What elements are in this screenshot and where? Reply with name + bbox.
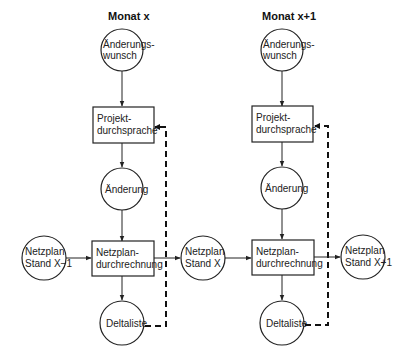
svg-text:Netzplan: Netzplan xyxy=(185,246,224,257)
svg-text:Netzplan: Netzplan xyxy=(345,245,384,256)
network-state-x-plus-1: Netzplan Stand X+1 xyxy=(341,235,392,279)
column-month-x: Monat x Änderungs- wunsch Projekt- durch… xyxy=(92,10,166,345)
column-month-x-plus-1: Monat x+1 Änderungs- wunsch Projekt- dur… xyxy=(252,10,328,345)
network-calc-node: Netzplan- durchrechnung xyxy=(252,240,323,275)
svg-text:Änderungs-: Änderungs- xyxy=(263,39,315,50)
svg-text:Netzplan: Netzplan xyxy=(25,246,64,257)
network-calc-node: Netzplan- durchrechnung xyxy=(92,241,163,276)
project-review-node: Projekt- durchsprache xyxy=(93,107,158,143)
network-state-x: Netzplan Stand X xyxy=(181,236,225,280)
project-review-node: Projekt- durchsprache xyxy=(252,106,317,142)
svg-text:Stand X: Stand X xyxy=(185,258,221,269)
svg-text:Deltaliste: Deltaliste xyxy=(266,318,308,329)
svg-text:Stand X−1: Stand X−1 xyxy=(25,258,72,269)
svg-text:Projekt-: Projekt- xyxy=(256,112,290,123)
svg-text:Stand X+1: Stand X+1 xyxy=(345,257,392,268)
svg-text:durchrechnung: durchrechnung xyxy=(96,259,163,270)
feedback-loop-dashed xyxy=(145,127,166,326)
svg-text:Änderung: Änderung xyxy=(265,183,308,194)
feedback-loop-dashed xyxy=(305,126,328,325)
change-node: Änderung xyxy=(261,167,308,209)
svg-text:Änderungs-: Änderungs- xyxy=(103,39,155,50)
svg-text:Netzplan-: Netzplan- xyxy=(96,247,139,258)
svg-text:Netzplan-: Netzplan- xyxy=(256,246,299,257)
change-request-node: Änderungs- wunsch xyxy=(101,29,155,71)
svg-text:Deltaliste: Deltaliste xyxy=(106,318,148,329)
svg-text:wunsch: wunsch xyxy=(262,50,297,61)
svg-text:Änderung: Änderung xyxy=(105,184,148,195)
network-state-x-minus-1: Netzplan Stand X−1 xyxy=(22,236,72,280)
svg-text:Projekt-: Projekt- xyxy=(97,113,131,124)
svg-text:wunsch: wunsch xyxy=(102,50,137,61)
change-request-node: Änderungs- wunsch xyxy=(261,29,315,71)
column-title: Monat x xyxy=(108,10,150,22)
svg-text:durchrechnung: durchrechnung xyxy=(256,258,323,269)
flow-diagram: Monat x Änderungs- wunsch Projekt- durch… xyxy=(0,0,403,362)
delta-list-node: Deltaliste xyxy=(260,301,308,345)
delta-list-node: Deltaliste xyxy=(100,301,148,345)
svg-text:durchsprache: durchsprache xyxy=(256,124,317,135)
change-node: Änderung xyxy=(101,168,148,210)
column-title: Monat x+1 xyxy=(262,10,316,22)
svg-text:durchsprache: durchsprache xyxy=(97,125,158,136)
